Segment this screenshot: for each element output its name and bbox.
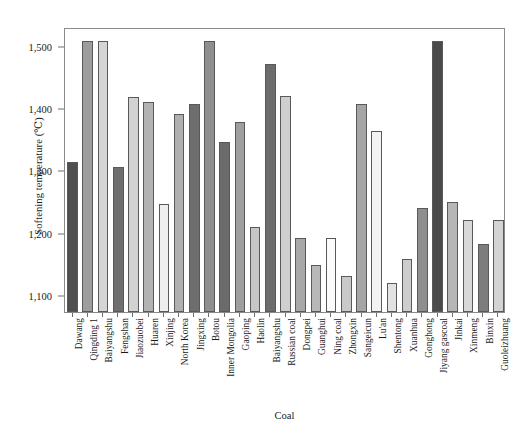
x-tick-label: Binxin <box>486 318 495 344</box>
x-tick-label: Gaoping <box>242 318 251 350</box>
y-tick-label: 1,100 <box>28 291 52 302</box>
bar <box>174 114 185 312</box>
x-tick-mark <box>345 313 346 317</box>
plot-area <box>64 28 505 313</box>
bar <box>128 97 139 312</box>
x-tick-label: Inner Mongolia <box>227 318 236 377</box>
chart-figure: Softening temperature (℃) 1,1001,2001,30… <box>0 0 530 440</box>
x-tick-mark <box>300 313 301 317</box>
bar <box>189 104 200 312</box>
y-axis-ticks: 1,1001,2001,3001,4001,500 <box>0 0 64 440</box>
x-tick-label: Lu'an <box>379 318 388 339</box>
x-tick-label: Haolin <box>257 318 266 344</box>
x-tick-label: Shentong <box>394 318 403 354</box>
x-tick-label: Baiyangshu <box>273 318 282 362</box>
x-tick-mark <box>482 313 483 317</box>
bar <box>67 162 78 312</box>
x-tick-mark <box>330 313 331 317</box>
x-tick-mark <box>497 313 498 317</box>
x-tick-label: Qingding 1 <box>90 318 99 361</box>
bar <box>463 220 474 312</box>
x-axis-title: Coal <box>64 410 505 421</box>
x-tick-mark <box>376 313 377 317</box>
y-tick-label: 1,400 <box>28 104 52 115</box>
x-tick-mark <box>193 313 194 317</box>
bar <box>143 102 154 312</box>
x-tick-mark <box>421 313 422 317</box>
x-tick-mark <box>163 313 164 317</box>
y-tick-label: 1,500 <box>28 41 52 52</box>
x-tick-mark <box>285 313 286 317</box>
x-tick-mark <box>208 313 209 317</box>
bar <box>432 41 443 312</box>
x-tick-label: Jingxing <box>197 318 206 350</box>
x-tick-label: Xuanhua <box>410 318 419 352</box>
x-tick-label: Dawang <box>75 318 84 349</box>
bar <box>417 208 428 312</box>
bar <box>447 202 458 312</box>
x-tick-mark <box>148 313 149 317</box>
x-tick-label: Dongpei <box>303 318 312 350</box>
x-tick-label: Guoleizhuang <box>501 318 510 371</box>
bar <box>82 41 93 312</box>
bar <box>204 41 215 312</box>
bar <box>493 220 504 312</box>
x-tick-mark <box>467 313 468 317</box>
bar <box>371 131 382 312</box>
y-tick-label: 1,300 <box>28 166 52 177</box>
x-tick-mark <box>72 313 73 317</box>
bar <box>280 96 291 312</box>
bar <box>387 283 398 312</box>
x-tick-label: Sangeicun <box>364 318 373 357</box>
x-tick-mark <box>239 313 240 317</box>
x-tick-label: Guanghui <box>318 318 327 355</box>
bar <box>265 64 276 312</box>
bar <box>113 167 124 312</box>
y-tick-label: 1,200 <box>28 228 52 239</box>
x-axis-category-labels: DawangQingding 1BaiyangshuFengshanJiaozu… <box>64 318 505 408</box>
bar-series <box>65 29 504 312</box>
bar <box>356 104 367 312</box>
x-tick-label: Fengshan <box>121 318 130 354</box>
x-tick-mark <box>132 313 133 317</box>
x-tick-mark <box>452 313 453 317</box>
x-tick-label: Zhongxin <box>349 318 358 355</box>
x-tick-mark <box>361 313 362 317</box>
x-tick-mark <box>391 313 392 317</box>
x-tick-label: Ning coal <box>334 318 343 355</box>
x-tick-mark <box>406 313 407 317</box>
x-tick-mark <box>269 313 270 317</box>
x-tick-label: Russian coal <box>288 318 297 366</box>
bar <box>478 244 489 312</box>
x-tick-label: Huaren <box>151 318 160 346</box>
x-tick-mark <box>87 313 88 317</box>
x-tick-label: Jiaozuobei <box>136 318 145 358</box>
x-tick-mark <box>224 313 225 317</box>
x-tick-label: Xinmeng <box>470 318 479 353</box>
bar <box>159 204 170 313</box>
x-tick-mark <box>117 313 118 317</box>
bar <box>235 122 246 312</box>
x-tick-label: Xinjing <box>166 318 175 347</box>
x-tick-label: Jiyang gascoal <box>440 318 449 373</box>
x-tick-mark <box>437 313 438 317</box>
x-tick-mark <box>102 313 103 317</box>
bar <box>98 41 109 312</box>
x-tick-mark <box>315 313 316 317</box>
bar <box>402 259 413 312</box>
bar <box>311 265 322 312</box>
x-tick-label: Gonghong <box>425 318 434 358</box>
bar <box>219 142 230 312</box>
bar <box>250 227 261 312</box>
x-tick-label: Jinkai <box>455 318 464 341</box>
x-tick-label: Botou <box>212 318 221 341</box>
bar <box>341 276 352 312</box>
bar <box>326 238 337 312</box>
bar <box>295 238 306 312</box>
x-tick-mark <box>178 313 179 317</box>
x-tick-mark <box>254 313 255 317</box>
x-tick-label: Baiyangshu <box>105 318 114 362</box>
x-tick-label: North Korea <box>181 318 190 365</box>
